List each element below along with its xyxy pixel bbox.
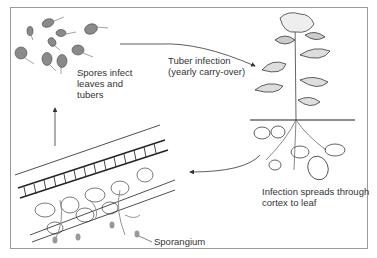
spores-label: Spores infect leaves and tubers xyxy=(77,67,132,100)
leaf-section-illustration xyxy=(15,125,175,244)
spores-illustration xyxy=(15,17,108,74)
sporangium-label: Sporangium xyxy=(154,236,205,247)
arrow-infection-spreads xyxy=(190,155,260,172)
potato-plant-illustration xyxy=(250,13,355,183)
infection-spreads-label: Infection spreads through cortex to leaf xyxy=(262,186,369,208)
diagram-canvas xyxy=(0,0,377,258)
tuber-infection-label: Tuber infection (yearly carry-over) xyxy=(168,55,245,77)
